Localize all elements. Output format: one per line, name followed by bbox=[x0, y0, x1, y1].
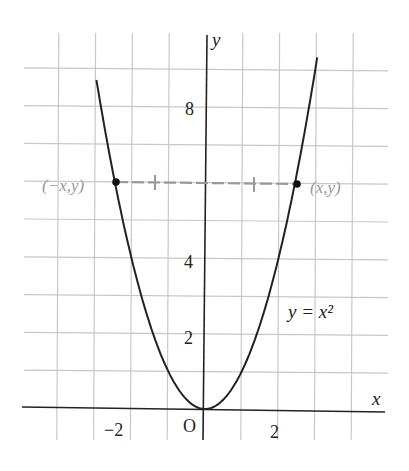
x-axis-label: x bbox=[371, 388, 381, 409]
y-axis bbox=[203, 35, 207, 440]
y-tick-2: 2 bbox=[184, 328, 193, 348]
point-left bbox=[112, 178, 120, 186]
point-right-label: (x,y) bbox=[310, 178, 341, 197]
y-tick-8: 8 bbox=[185, 99, 194, 119]
origin-label: O bbox=[183, 416, 196, 436]
y-axis-label: y bbox=[210, 29, 221, 50]
x-tick-2: 2 bbox=[270, 422, 279, 442]
point-left-label: (−x,y) bbox=[42, 176, 84, 195]
dashed-segment bbox=[116, 182, 297, 184]
parabola-chart: (−x,y) (x,y) y x O 8 4 2 −2 2 y = x² bbox=[0, 0, 409, 471]
point-right bbox=[293, 180, 301, 188]
x-tick-neg2: −2 bbox=[104, 420, 123, 440]
y-tick-4: 4 bbox=[184, 252, 193, 272]
curve-label: y = x² bbox=[286, 301, 333, 322]
